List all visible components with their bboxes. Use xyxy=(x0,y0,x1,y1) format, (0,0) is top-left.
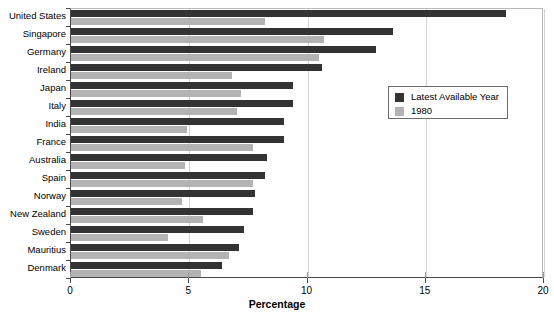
x-axis-tick xyxy=(543,278,544,283)
plot-area xyxy=(70,8,543,278)
bar-latest-available-year xyxy=(71,154,267,161)
x-axis-tick-label: 20 xyxy=(537,285,548,296)
category-label: Denmark xyxy=(0,263,66,273)
legend-swatch-1980 xyxy=(395,107,404,116)
x-axis-tick xyxy=(425,278,426,283)
category-tick xyxy=(66,8,70,9)
bar-1980 xyxy=(71,162,185,169)
category-label: Spain xyxy=(0,173,66,183)
category-tick xyxy=(66,188,70,189)
bar-latest-available-year xyxy=(71,82,293,89)
bar-latest-available-year xyxy=(71,100,293,107)
bar-group xyxy=(71,63,542,81)
bar-latest-available-year xyxy=(71,118,284,125)
bar-latest-available-year xyxy=(71,64,322,71)
grouped-bar-chart: United StatesSingaporeGermanyIrelandJapa… xyxy=(0,0,554,314)
bar-group xyxy=(71,171,542,189)
x-axis-tick-label: 10 xyxy=(301,285,312,296)
bar-1980 xyxy=(71,72,232,79)
category-tick xyxy=(66,134,70,135)
bar-1980 xyxy=(71,270,201,277)
bar-1980 xyxy=(71,18,265,25)
category-label: Japan xyxy=(0,83,66,93)
category-label: New Zealand xyxy=(0,209,66,219)
bar-1980 xyxy=(71,216,203,223)
bar-group xyxy=(71,45,542,63)
category-tick xyxy=(66,206,70,207)
bar-group xyxy=(71,9,542,27)
bar-latest-available-year xyxy=(71,262,222,269)
category-label: Singapore xyxy=(0,29,66,39)
category-label: Sweden xyxy=(0,227,66,237)
bar-latest-available-year xyxy=(71,190,255,197)
bar-group xyxy=(71,243,542,261)
category-tick xyxy=(66,152,70,153)
category-tick xyxy=(66,44,70,45)
bar-latest-available-year xyxy=(71,226,244,233)
category-tick xyxy=(66,224,70,225)
x-axis-tick xyxy=(188,278,189,283)
bar-latest-available-year xyxy=(71,10,506,17)
category-label: Ireland xyxy=(0,65,66,75)
bar-latest-available-year xyxy=(71,46,376,53)
category-label: Australia xyxy=(0,155,66,165)
category-label: Germany xyxy=(0,47,66,57)
category-tick xyxy=(66,62,70,63)
bar-group xyxy=(71,27,542,45)
category-label: India xyxy=(0,119,66,129)
x-axis-tick-label: 15 xyxy=(419,285,430,296)
category-tick xyxy=(66,26,70,27)
legend-swatch-latest xyxy=(395,93,404,102)
category-tick xyxy=(66,80,70,81)
bar-group xyxy=(71,225,542,243)
category-axis-labels: United StatesSingaporeGermanyIrelandJapa… xyxy=(0,8,66,278)
bar-latest-available-year xyxy=(71,28,393,35)
bar-1980 xyxy=(71,126,187,133)
bar-latest-available-year xyxy=(71,136,284,143)
legend: Latest Available Year 1980 xyxy=(388,86,508,119)
legend-label-latest: Latest Available Year xyxy=(411,91,499,103)
x-axis-tick xyxy=(307,278,308,283)
x-axis-tick xyxy=(70,278,71,283)
x-axis-tick-inner xyxy=(425,272,426,278)
bar-group xyxy=(71,207,542,225)
x-axis-tick-label: 5 xyxy=(185,285,191,296)
x-axis-tick-label: 0 xyxy=(67,285,73,296)
category-label: Italy xyxy=(0,101,66,111)
bar-1980 xyxy=(71,54,319,61)
bar-1980 xyxy=(71,180,253,187)
bar-1980 xyxy=(71,198,182,205)
x-axis-title: Percentage xyxy=(0,298,554,310)
bar-1980 xyxy=(71,144,253,151)
category-tick xyxy=(66,98,70,99)
bar-1980 xyxy=(71,108,237,115)
bar-latest-available-year xyxy=(71,172,265,179)
x-axis-tick-inner xyxy=(70,272,71,278)
legend-label-1980: 1980 xyxy=(411,105,432,117)
category-label: Norway xyxy=(0,191,66,201)
bar-1980 xyxy=(71,36,324,43)
bar-1980 xyxy=(71,90,241,97)
category-label: United States xyxy=(0,11,66,21)
bar-latest-available-year xyxy=(71,208,253,215)
category-tick xyxy=(66,260,70,261)
category-label: Mauritius xyxy=(0,245,66,255)
x-axis-tick-inner xyxy=(307,272,308,278)
bar-1980 xyxy=(71,234,168,241)
bar-group xyxy=(71,153,542,171)
bar-group xyxy=(71,189,542,207)
bar-group xyxy=(71,117,542,135)
bars-layer xyxy=(71,9,542,277)
bar-1980 xyxy=(71,252,229,259)
bar-group xyxy=(71,135,542,153)
category-tick xyxy=(66,242,70,243)
bar-latest-available-year xyxy=(71,244,239,251)
x-axis-tick-inner xyxy=(188,272,189,278)
category-label: France xyxy=(0,137,66,147)
gridline xyxy=(544,9,545,277)
x-axis-tick-inner xyxy=(543,272,544,278)
category-tick xyxy=(66,170,70,171)
category-tick xyxy=(66,116,70,117)
